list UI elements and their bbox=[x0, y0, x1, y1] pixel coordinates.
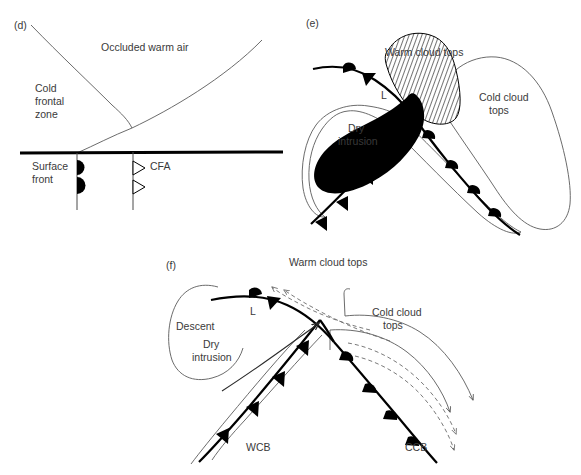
label-cfa: CFA bbox=[150, 160, 170, 172]
panel-e-tag: (e) bbox=[306, 17, 319, 29]
warm-front-semicircle-symbol bbox=[467, 185, 480, 194]
label-cold-frontal-zone-line-3: zone bbox=[35, 108, 58, 120]
cold-front-triangle-symbol bbox=[267, 296, 281, 310]
panel-d-tag: (d) bbox=[14, 19, 27, 31]
ccb-flow-arrow-dashed bbox=[355, 356, 454, 450]
label-cold-frontal-zone-line-1: Cold bbox=[35, 82, 57, 94]
warm-front-semicircle-symbol bbox=[339, 351, 353, 361]
warm-front-semicircle-symbol bbox=[77, 160, 85, 175]
label-dry-intrusion-line-2: intrusion bbox=[338, 135, 378, 147]
panel-d: (d) Occluded warm air Cold frontal zone … bbox=[14, 19, 283, 210]
descent-region-outline bbox=[169, 285, 243, 379]
warm-frontal-surface-line bbox=[77, 40, 262, 153]
label-surface-front-line-2: front bbox=[32, 173, 53, 185]
label-cold-cloud-tops-line-2: tops bbox=[489, 104, 509, 116]
warm-front-semicircle-symbol bbox=[343, 63, 356, 73]
label-surface-front-line-1: Surface bbox=[32, 160, 68, 172]
warm-front-semicircle-symbol bbox=[422, 130, 435, 139]
ground-surface-line bbox=[20, 152, 283, 153]
label-dry-intrusion-line-1: Dry bbox=[348, 122, 365, 134]
warm-front-semicircle-symbol bbox=[362, 383, 376, 393]
cloud-boundary-connector bbox=[344, 289, 350, 316]
label-wcb: WCB bbox=[246, 441, 271, 453]
panel-f-tag: (f) bbox=[166, 259, 176, 271]
label-low-center-e: L bbox=[381, 89, 387, 101]
label-cold-cloud-tops-f-line-2: tops bbox=[383, 319, 403, 331]
label-descent: Descent bbox=[176, 320, 215, 332]
label-cold-cloud-tops-line-1: Cold cloud bbox=[479, 91, 529, 103]
panel-f: (f) bbox=[166, 256, 473, 464]
label-occluded-warm-air: Occluded warm air bbox=[101, 41, 189, 53]
warm-front-semicircle-symbol bbox=[383, 410, 397, 420]
label-warm-cloud-tops: Warm cloud tops bbox=[385, 46, 463, 58]
panel-e: (e) Warm cloud tops L Dry in bbox=[302, 17, 570, 235]
figure-container: (d) Occluded warm air Cold frontal zone … bbox=[0, 0, 581, 475]
cold-front-triangle-symbol bbox=[272, 371, 285, 387]
label-cold-cloud-tops-f-line-1: Cold cloud bbox=[372, 306, 422, 318]
warm-front-semicircle-symbol bbox=[488, 208, 501, 217]
label-cold-frontal-zone-line-2: frontal bbox=[35, 95, 64, 107]
warm-front-semicircle-symbol bbox=[77, 177, 86, 194]
label-ccb: CCB bbox=[405, 441, 427, 453]
cfa-open-triangle-symbol bbox=[133, 180, 145, 194]
warm-cloud-boundary-lower bbox=[330, 330, 450, 412]
triple-point-junction bbox=[320, 320, 334, 342]
warm-front-semicircle-symbol bbox=[445, 160, 458, 169]
label-low-center-f: L bbox=[250, 305, 256, 317]
cfa-open-triangle-symbol bbox=[133, 161, 145, 175]
label-dry-intrusion-f-line-2: intrusion bbox=[192, 351, 232, 363]
label-warm-cloud-tops-f: Warm cloud tops bbox=[289, 256, 367, 268]
wcb-flow-arrow-dashed bbox=[272, 287, 370, 330]
label-dry-intrusion-f-line-1: Dry bbox=[203, 338, 220, 350]
meteorology-diagram: (d) Occluded warm air Cold frontal zone … bbox=[0, 0, 581, 475]
